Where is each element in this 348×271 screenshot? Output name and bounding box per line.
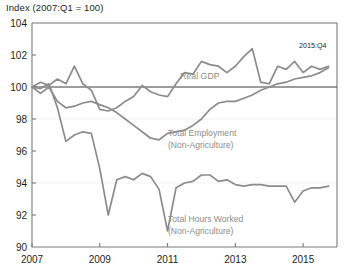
x-tick-label: 2011 bbox=[157, 254, 179, 265]
x-tick-label: 2009 bbox=[89, 254, 112, 265]
x-axis-tick-labels: 20072009201120132015 bbox=[21, 254, 315, 265]
y-tick-label: 92 bbox=[16, 210, 28, 221]
series-label-total-hours-worked-sub: (Non-Agriculture) bbox=[168, 226, 234, 236]
y-axis-tick-labels: 9092949698100102104 bbox=[10, 18, 27, 253]
series-label-total-employment-sub: (Non-Agriculture) bbox=[168, 140, 234, 150]
y-tick-label: 90 bbox=[16, 242, 28, 253]
y-tick-label: 102 bbox=[10, 50, 27, 61]
series-label-total-employment: Total Employment bbox=[168, 128, 237, 138]
line-chart-plot: 9092949698100102104 20072009201120132015… bbox=[0, 0, 348, 271]
y-tick-label: 96 bbox=[16, 146, 28, 157]
series-label-real-gdp: Real GDP bbox=[180, 71, 220, 81]
series-label-total-hours-worked: Total Hours Worked bbox=[168, 214, 244, 224]
x-tick-label: 2007 bbox=[21, 254, 44, 265]
x-tick-label: 2015 bbox=[292, 254, 315, 265]
y-tick-label: 94 bbox=[16, 178, 28, 189]
end-point-annotation: 2015:Q4 bbox=[299, 41, 327, 50]
y-tick-label: 98 bbox=[16, 114, 28, 125]
y-tick-label: 100 bbox=[10, 82, 27, 93]
chart-container: Index (2007:Q1 = 100) 909294969810010210… bbox=[0, 0, 348, 271]
x-tick-label: 2013 bbox=[224, 254, 247, 265]
y-tick-label: 104 bbox=[10, 18, 27, 29]
faint-gridlines bbox=[33, 23, 336, 183]
